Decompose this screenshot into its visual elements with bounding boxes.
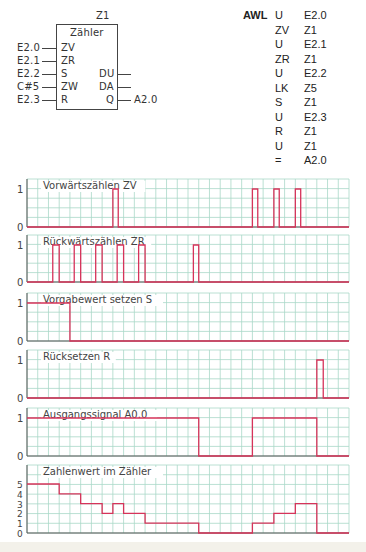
y-tick-label: 5	[17, 480, 23, 490]
y-tick-label: 0	[17, 277, 23, 288]
timing-panel: Vorwärtszählen ZV01	[17, 179, 349, 233]
y-tick-label: 1	[17, 413, 23, 424]
panel-title: Rücksetzen R	[43, 351, 110, 362]
y-tick-label: 1	[17, 355, 23, 366]
y-tick-label: 1	[17, 298, 23, 309]
y-tick-label: 0	[17, 451, 23, 462]
y-tick-label: 1	[17, 240, 23, 251]
timing-panel: Rücksetzen R01	[17, 350, 349, 404]
y-tick-label: 1	[17, 519, 23, 529]
timing-diagram: Vorwärtszählen ZV01Rückwärtszählen ZR01V…	[0, 0, 366, 552]
y-tick-label: 4	[17, 490, 23, 500]
bottom-band	[0, 542, 366, 552]
y-tick-label: 3	[17, 500, 23, 510]
y-tick-label: 0	[17, 393, 23, 404]
panel-title: Zahlenwert im Zähler	[43, 466, 152, 477]
timing-panel: Ausgangssignal A0.001	[17, 408, 349, 462]
timing-panel: Zahlenwert im Zähler012345	[17, 465, 349, 539]
y-tick-label: 1	[17, 184, 23, 195]
timing-panel: Rückwärtszählen ZR01	[17, 235, 349, 288]
y-tick-label: 0	[17, 336, 23, 347]
timing-panel: Vorgabewert setzen S01	[17, 293, 349, 347]
y-tick-label: 0	[17, 529, 23, 539]
y-tick-label: 0	[17, 222, 23, 233]
panel-title: Vorwärtszählen ZV	[43, 180, 137, 191]
y-tick-label: 2	[17, 509, 23, 519]
